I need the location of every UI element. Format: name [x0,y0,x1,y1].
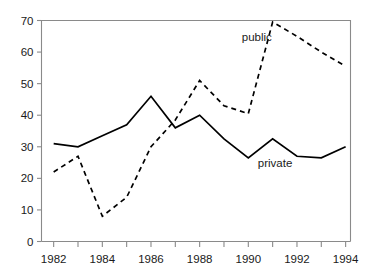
axis-frame [42,21,351,242]
y-axis-tick-labels: 010203040506070 [21,15,34,248]
y-tick-label: 0 [27,236,33,248]
chart-figure: 010203040506070 198219841986198819901992… [0,0,374,280]
series-label-public: public [242,31,272,43]
series-line-private [54,96,346,158]
y-tick-label: 30 [21,141,34,153]
x-tick-label: 1992 [284,253,310,265]
y-tick-label: 50 [21,78,34,90]
y-tick-label: 10 [21,204,34,216]
y-tick-label: 20 [21,172,34,184]
x-tick-label: 1982 [41,253,67,265]
line-chart: 010203040506070 198219841986198819901992… [0,0,374,280]
y-axis-ticks [37,21,42,242]
x-tick-label: 1988 [187,253,213,265]
x-tick-label: 1994 [333,253,359,265]
x-axis-tick-labels: 1982198419861988199019921994 [41,253,359,265]
x-tick-label: 1984 [90,253,116,265]
series-line-public [54,22,346,216]
series-label-private: private [258,157,293,169]
x-tick-label: 1990 [236,253,262,265]
x-axis-ticks [42,242,351,248]
y-tick-label: 40 [21,109,34,121]
y-tick-label: 60 [21,46,34,58]
plot-frame [42,21,351,242]
x-tick-label: 1986 [138,253,164,265]
y-tick-label: 70 [21,15,34,27]
